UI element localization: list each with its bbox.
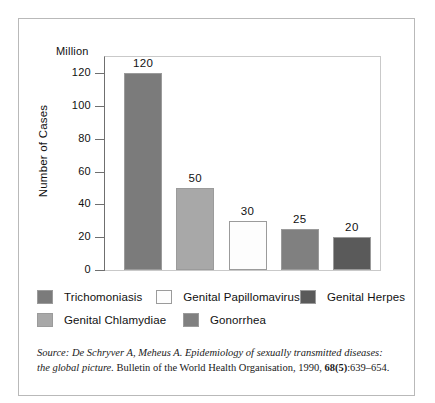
bar-value-label: 25 [293, 213, 307, 225]
legend-label: Trichomoniasis [64, 291, 142, 303]
y-tick-mark [95, 270, 105, 271]
legend-label: Genital Papillomavirus [183, 291, 300, 303]
bar-genital-herpes[interactable]: 20 [333, 237, 371, 270]
plot-inner: 0 20 40 60 80 [105, 57, 380, 270]
bar-value-label: 20 [345, 221, 359, 233]
y-tick-mark [95, 237, 105, 238]
bar-slot: 120 [119, 57, 167, 270]
bar-genital-chlamydiae[interactable]: 50 [176, 188, 214, 270]
y-tick-label: 40 [78, 197, 91, 209]
y-tick-mark [95, 204, 105, 205]
legend-item-genital-chlamydiae[interactable]: Genital Chlamydiae [37, 313, 183, 327]
bar-series: 120 50 30 25 [105, 57, 380, 270]
y-tick-mark [95, 106, 105, 107]
bar-genital-papillomavirus[interactable]: 30 [229, 221, 267, 270]
bar-slot: 25 [276, 57, 324, 270]
bar-value-label: 50 [189, 172, 203, 184]
source-journal: Bulletin of the World Health Organisatio… [117, 362, 293, 373]
bar-chart: Million Number of Cases 0 20 40 60 [19, 19, 416, 281]
legend-label: Genital Herpes [327, 291, 405, 303]
y-axis-unit-label: Million [56, 45, 89, 57]
legend-swatch-icon [37, 290, 53, 304]
bar-value-label: 30 [241, 205, 255, 217]
legend-row: Trichomoniasis Genital Papillomavirus Ge… [37, 285, 405, 308]
bar-value-label: 120 [133, 57, 153, 69]
legend-swatch-icon [156, 290, 172, 304]
chart-legend: Trichomoniasis Genital Papillomavirus Ge… [37, 285, 405, 331]
y-tick-label: 60 [78, 165, 91, 177]
legend-label: Gonorrhea [210, 314, 266, 326]
source-volume: 68(5) [324, 362, 347, 373]
legend-item-genital-papillomavirus[interactable]: Genital Papillomavirus [156, 290, 300, 304]
plot-area: 0 20 40 60 80 [104, 56, 381, 271]
y-axis-title: Number of Cases [37, 76, 49, 226]
legend-swatch-icon [37, 313, 53, 327]
bar-slot: 30 [223, 57, 271, 270]
legend-item-genital-herpes[interactable]: Genital Herpes [300, 290, 405, 304]
y-tick-label: 80 [78, 132, 91, 144]
bar-slot: 50 [171, 57, 219, 270]
y-tick-label: 120 [72, 66, 91, 78]
bar-trichomoniasis[interactable]: 120 [124, 73, 162, 270]
y-tick-mark [95, 172, 105, 173]
source-pages: :639–654. [347, 362, 389, 373]
y-tick-label: 20 [78, 230, 91, 242]
legend-item-trichomoniasis[interactable]: Trichomoniasis [37, 290, 156, 304]
source-year: , 1990, [293, 362, 325, 373]
legend-row: Genital Chlamydiae Gonorrhea [37, 308, 405, 331]
y-tick-mark [95, 139, 105, 140]
legend-item-gonorrhea[interactable]: Gonorrhea [183, 313, 266, 327]
y-tick-label: 100 [72, 99, 91, 111]
legend-swatch-icon [183, 313, 199, 327]
bar-slot: 20 [328, 57, 376, 270]
figure-frame: Million Number of Cases 0 20 40 60 [18, 18, 415, 396]
legend-label: Genital Chlamydiae [64, 314, 166, 326]
source-citation: Source: De Schryver A, Meheus A. Epidemi… [37, 345, 397, 375]
legend-swatch-icon [300, 290, 316, 304]
y-tick-mark [95, 73, 105, 74]
bar-gonorrhea[interactable]: 25 [281, 229, 319, 270]
y-tick-label: 0 [85, 263, 91, 275]
